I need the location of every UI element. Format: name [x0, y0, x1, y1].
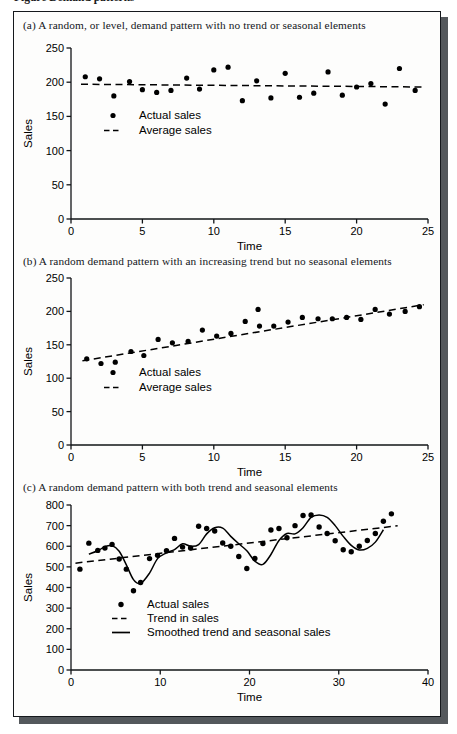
data-point — [373, 307, 378, 312]
data-point — [147, 556, 152, 561]
data-point — [228, 544, 233, 549]
data-point — [292, 523, 297, 528]
data-point — [127, 79, 132, 84]
legend-label: Actual sales — [147, 598, 209, 610]
data-point — [325, 69, 330, 74]
x-tick-label: 10 — [208, 225, 220, 237]
y-tick-label: 50 — [52, 179, 64, 191]
x-tick-label: 15 — [279, 225, 291, 237]
data-point — [77, 566, 82, 571]
y-tick-label: 100 — [46, 145, 64, 157]
legend-item: Actual sales — [118, 598, 209, 610]
legend: Actual salesTrend in salesSmoothed trend… — [112, 598, 331, 638]
data-point — [97, 76, 102, 81]
legend-item: Average sales — [104, 381, 212, 393]
x-axis-title: Time — [237, 466, 262, 478]
data-point — [184, 76, 189, 81]
legend-label: Trend in sales — [147, 612, 219, 624]
x-tick-label: 20 — [243, 676, 255, 688]
data-point — [315, 316, 320, 321]
data-point — [283, 71, 288, 76]
y-axis-title: Sales — [22, 347, 34, 376]
legend-label: Actual sales — [139, 109, 201, 121]
legend: Actual salesAverage sales — [104, 366, 212, 393]
data-point — [220, 540, 225, 545]
data-point — [403, 309, 408, 314]
data-point — [373, 531, 378, 536]
legend-item: Smoothed trend and seasonal sales — [112, 626, 331, 638]
frame-shadow-bottom — [19, 717, 448, 724]
y-tick-label: 100 — [46, 372, 64, 384]
data-point — [243, 319, 248, 324]
data-point — [349, 549, 354, 554]
data-point — [311, 91, 316, 96]
panel-a: (a) A random, or level, demand pattern w… — [14, 16, 442, 252]
x-tick-label: 0 — [68, 225, 74, 237]
y-tick-label: 50 — [52, 406, 64, 418]
data-point — [154, 90, 159, 95]
data-point — [211, 67, 216, 72]
figure-frame: (a) A random, or level, demand pattern w… — [13, 11, 441, 717]
data-point — [214, 334, 219, 339]
data-point — [417, 304, 422, 309]
data-point — [244, 566, 249, 571]
data-point — [389, 511, 394, 516]
y-tick-label: 250 — [46, 272, 64, 284]
data-point — [86, 540, 91, 545]
y-tick-label: 200 — [46, 76, 64, 88]
y-tick-label: 700 — [46, 520, 64, 532]
y-tick-label: 600 — [46, 540, 64, 552]
x-tick-label: 25 — [422, 225, 434, 237]
data-point — [285, 319, 290, 324]
data-point — [268, 95, 273, 100]
data-point — [255, 307, 260, 312]
data-point — [341, 547, 346, 552]
data-point — [236, 554, 241, 559]
legend-label: Smoothed trend and seasonal sales — [147, 626, 331, 638]
x-tick-label: 30 — [333, 676, 345, 688]
data-point — [413, 88, 418, 93]
x-axis-title: Time — [237, 691, 262, 703]
y-tick-label: 200 — [46, 305, 64, 317]
legend-label: Average sales — [139, 124, 212, 136]
y-tick-label: 0 — [58, 664, 64, 676]
data-point — [196, 524, 201, 529]
x-tick-label: 25 — [422, 451, 434, 463]
x-tick-label: 5 — [139, 451, 145, 463]
data-point — [268, 527, 273, 532]
y-tick-label: 200 — [46, 623, 64, 635]
panel-a-plot: 0501001502002500510152025SalesTimeActual… — [14, 16, 442, 252]
data-point — [340, 93, 345, 98]
data-point — [172, 536, 177, 541]
legend-item: Actual sales — [110, 109, 201, 121]
y-tick-label: 150 — [46, 110, 64, 122]
x-tick-label: 40 — [422, 676, 434, 688]
data-point — [200, 328, 205, 333]
panel-b-plot: 0501001502002500510152025SalesTimeActual… — [14, 252, 442, 478]
legend-item: Average sales — [104, 124, 212, 136]
data-point — [297, 95, 302, 100]
y-tick-label: 150 — [46, 339, 64, 351]
smoothed-line — [89, 515, 384, 584]
x-tick-label: 10 — [208, 451, 220, 463]
data-point — [98, 361, 103, 366]
data-point — [383, 101, 388, 106]
data-point — [131, 588, 136, 593]
frame-shadow-right — [441, 17, 448, 723]
x-tick-label: 15 — [279, 451, 291, 463]
data-point — [316, 524, 321, 529]
panel-b: (b) A random demand pattern with an incr… — [14, 252, 442, 478]
data-point — [197, 86, 202, 91]
data-point — [284, 535, 289, 540]
y-tick-label: 250 — [46, 42, 64, 54]
data-point — [358, 317, 363, 322]
x-axis-title: Time — [237, 240, 262, 252]
y-tick-label: 0 — [58, 213, 64, 225]
legend: Actual salesAverage sales — [104, 109, 212, 136]
data-point — [83, 74, 88, 79]
data-point — [271, 324, 276, 329]
x-tick-label: 0 — [68, 451, 74, 463]
y-tick-label: 0 — [58, 439, 64, 451]
data-point — [387, 311, 392, 316]
y-tick-label: 100 — [46, 643, 64, 655]
